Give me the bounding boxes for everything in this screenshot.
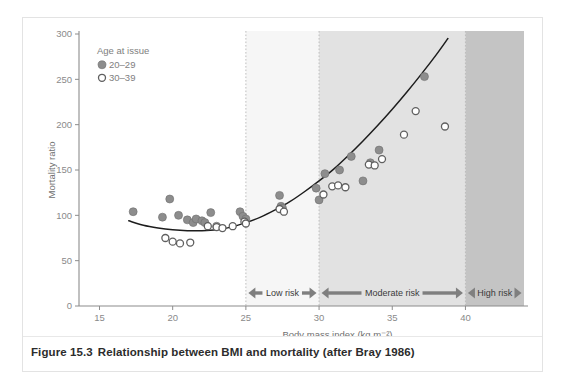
y-tick-label-200: 200 <box>56 119 72 130</box>
caption-zone: Figure 15.3Relationship between BMI and … <box>23 336 542 371</box>
y-tick-label-0: 0 <box>67 300 72 311</box>
data-point-30-39 <box>320 191 327 198</box>
data-point-20-29 <box>166 195 174 203</box>
y-tick-label-250: 250 <box>56 74 72 85</box>
x-tick-label-15: 15 <box>94 312 105 323</box>
data-point-20-29 <box>359 177 367 185</box>
data-point-30-39 <box>242 220 249 227</box>
data-point-20-29 <box>207 209 215 217</box>
data-point-20-29 <box>312 184 320 192</box>
data-point-30-39 <box>162 235 169 242</box>
chart-plot-area: 050100150200250300152025303540Mortality … <box>23 18 542 336</box>
y-tick-label-150: 150 <box>56 164 72 175</box>
risk-band-labels-group: Low riskModerate riskHigh risk <box>248 288 521 299</box>
data-point-30-39 <box>342 184 349 191</box>
data-point-30-39 <box>204 223 211 230</box>
risk-band-high-risk <box>465 31 524 306</box>
legend-label-30–39: 30–39 <box>109 72 135 83</box>
data-point-30-39 <box>169 238 176 245</box>
data-point-30-39 <box>400 131 407 138</box>
data-point-30-39 <box>229 223 236 230</box>
data-point-30-39 <box>280 208 287 215</box>
bmi-mortality-scatter-chart: 050100150200250300152025303540Mortality … <box>23 18 542 336</box>
data-point-30-39 <box>177 240 184 247</box>
legend-marker-open-circle <box>99 74 106 81</box>
x-tick-label-35: 35 <box>387 312 398 323</box>
data-point-20-29 <box>158 213 166 221</box>
band-label-moderate-risk: Moderate risk <box>365 288 420 298</box>
legend-marker-filled-circle <box>98 61 106 69</box>
risk-band-shading-group <box>246 31 524 306</box>
data-point-30-39 <box>379 156 386 163</box>
x-tick-label-30: 30 <box>314 312 325 323</box>
band-bar-right-moderate-risk <box>423 291 457 294</box>
x-tick-label-40: 40 <box>460 312 471 323</box>
data-point-20-29 <box>336 166 344 174</box>
data-point-30-39 <box>335 182 342 189</box>
chart-legend: Age at issue20–2930–39 <box>97 45 149 83</box>
data-point-30-39 <box>219 225 226 232</box>
x-tick-label-20: 20 <box>167 312 178 323</box>
legend-label-20–29: 20–29 <box>109 59 135 70</box>
band-bar-left-low-risk <box>255 291 263 294</box>
data-point-30-39 <box>187 239 194 246</box>
caption-text: Relationship between BMI and mortality (… <box>93 346 415 358</box>
data-point-30-39 <box>412 108 419 115</box>
data-point-30-39 <box>441 123 448 130</box>
data-point-20-29 <box>420 73 428 81</box>
data-point-20-29 <box>276 191 284 199</box>
caption-number: Figure 15.3 <box>31 346 93 358</box>
band-bar-left-moderate-risk <box>328 291 361 294</box>
data-point-20-29 <box>375 146 383 154</box>
data-point-20-29 <box>175 211 183 219</box>
x-axis-title: Body mass index (kg m⁻²) <box>282 329 392 336</box>
data-point-20-29 <box>347 152 355 160</box>
legend-title: Age at issue <box>97 45 149 56</box>
y-tick-label-300: 300 <box>56 28 72 39</box>
data-point-30-39 <box>371 162 378 169</box>
y-axis-title: Mortality ratio <box>46 141 57 198</box>
data-point-20-29 <box>321 170 329 178</box>
figure-caption: Figure 15.3Relationship between BMI and … <box>31 346 415 358</box>
band-bar-right-low-risk <box>302 291 310 294</box>
band-label-high-risk: High risk <box>477 288 513 298</box>
y-tick-label-50: 50 <box>61 255 72 266</box>
figure-panel: 050100150200250300152025303540Mortality … <box>22 17 543 372</box>
x-tick-label-25: 25 <box>241 312 252 323</box>
y-tick-label-100: 100 <box>56 210 72 221</box>
band-label-low-risk: Low risk <box>266 288 300 298</box>
risk-band-low-risk <box>246 31 319 306</box>
data-point-20-29 <box>129 208 137 216</box>
